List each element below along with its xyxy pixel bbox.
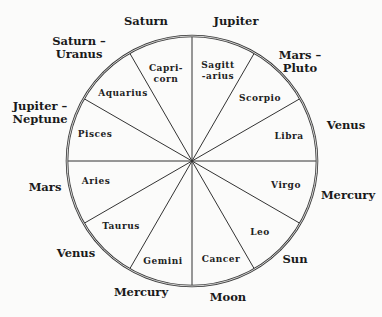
sign-label-gemini: Gemini (143, 256, 182, 266)
ruler-label: Jupiter –Neptune (12, 99, 68, 126)
ruler-label: Mars (29, 180, 62, 194)
spoke-line (84, 161, 192, 224)
sign-label-leo: Leo (250, 227, 270, 237)
ruler-label: Moon (210, 290, 247, 304)
sign-label-sagittarius: Sagitt-arius (201, 60, 235, 81)
spoke-line (130, 161, 193, 269)
sign-label-scorpio: Scorpio (239, 93, 281, 103)
ruler-label: Jupiter (213, 14, 260, 28)
spoke-line (192, 161, 300, 224)
sign-label-pisces: Pisces (78, 129, 113, 139)
sign-label-taurus: Taurus (102, 221, 140, 231)
ruler-label: Sun (282, 252, 308, 266)
ruler-label: Venus (56, 246, 95, 260)
ruler-label: Mars –Pluto (279, 48, 322, 75)
spoke-line (192, 161, 255, 269)
sign-label-capricorn: Capri-corn (149, 63, 183, 84)
ruler-label: Venus (326, 118, 365, 132)
ruler-label: Saturn (124, 14, 168, 28)
ruler-label: Saturn –Uranus (52, 34, 106, 61)
spoke-line (192, 99, 300, 162)
ruler-label: Mercury (114, 285, 169, 299)
sign-label-virgo: Virgo (270, 180, 301, 190)
sign-label-libra: Libra (274, 131, 303, 141)
sign-label-cancer: Cancer (202, 254, 241, 264)
ruler-label: Mercury (321, 188, 376, 202)
sign-label-aries: Aries (81, 176, 110, 186)
sign-label-aquarius: Aquarius (97, 88, 147, 98)
zodiac-wheel-diagram: Capri-cornSagitt-ariusScorpioLibraVirgoL… (0, 0, 382, 317)
